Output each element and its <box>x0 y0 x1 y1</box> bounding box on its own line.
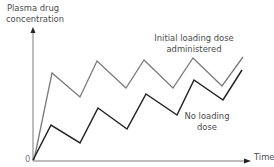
x-axis-arrow-icon <box>244 159 251 164</box>
chart-canvas <box>0 0 274 167</box>
y-axis-arrow-icon <box>31 27 36 33</box>
